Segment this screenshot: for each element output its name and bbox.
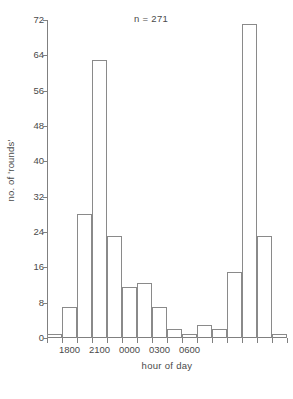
x-axis-tick-mark	[287, 338, 288, 343]
x-axis-tick-label: 1800	[59, 344, 80, 355]
x-axis-tick-label: 0300	[149, 344, 170, 355]
x-axis-tick-mark	[137, 338, 138, 343]
histogram-bar	[167, 329, 182, 338]
histogram-bar	[92, 60, 107, 338]
x-axis-tick-mark	[167, 338, 168, 343]
y-axis-tick-mark	[43, 161, 48, 162]
x-axis-tick-mark	[62, 338, 63, 343]
histogram-bar	[227, 272, 242, 338]
histogram-bar	[212, 329, 227, 338]
x-axis-tick-mark	[257, 338, 258, 343]
y-axis-tick-mark	[43, 197, 48, 198]
x-axis-title: hour of day	[47, 360, 287, 371]
histogram-bar	[77, 214, 92, 338]
y-axis-tick-mark	[43, 267, 48, 268]
y-axis-tick-mark	[43, 91, 48, 92]
y-axis-tick-mark	[43, 232, 48, 233]
x-axis-tick-mark	[242, 338, 243, 343]
histogram-bar	[62, 307, 77, 338]
sample-size-annotation: n = 271	[134, 13, 168, 24]
y-axis-tick-labels: 081624324048566472	[18, 0, 44, 345]
histogram-bar	[47, 334, 62, 338]
x-axis-tick-mark	[122, 338, 123, 343]
x-axis-tick-label: 2100	[89, 344, 110, 355]
x-axis-tick-labels: 18002100000003000600	[47, 344, 287, 358]
y-axis-title-text: no. of 'rounds'	[5, 139, 16, 201]
histogram-bar	[197, 325, 212, 338]
x-axis-tick-mark	[152, 338, 153, 343]
x-axis-tick-mark	[92, 338, 93, 343]
x-axis-tick-mark	[212, 338, 213, 343]
histogram-figure: no. of 'rounds' 081624324048566472 18002…	[0, 0, 293, 399]
x-axis-tick-mark	[182, 338, 183, 343]
y-axis-title: no. of 'rounds'	[0, 0, 20, 340]
y-axis-tick-mark	[43, 303, 48, 304]
y-axis-tick-mark	[43, 126, 48, 127]
x-axis-tick-mark	[47, 338, 48, 343]
histogram-bar	[152, 307, 167, 338]
histogram-bar	[122, 287, 137, 338]
histogram-bar	[137, 283, 152, 338]
x-axis-tick-mark	[272, 338, 273, 343]
histogram-bar	[272, 334, 287, 338]
x-axis-tick-label: 0000	[119, 344, 140, 355]
histogram-bar	[182, 334, 197, 338]
x-axis-tick-mark	[77, 338, 78, 343]
plot-area	[47, 20, 287, 338]
histogram-bar	[242, 24, 257, 338]
x-axis-tick-label: 0600	[179, 344, 200, 355]
x-axis-tick-mark	[107, 338, 108, 343]
x-axis-tick-mark	[197, 338, 198, 343]
x-axis-tick-mark	[227, 338, 228, 343]
bar-series	[47, 20, 287, 338]
histogram-bar	[257, 236, 272, 338]
y-axis-tick-mark	[43, 55, 48, 56]
histogram-bar	[107, 236, 122, 338]
y-axis-tick-mark	[43, 20, 48, 21]
